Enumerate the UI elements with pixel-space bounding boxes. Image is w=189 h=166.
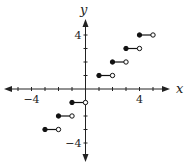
- y-axis-down-arrow-icon: [83, 154, 89, 162]
- closed-dot-icon: [43, 127, 47, 131]
- closed-dot-icon: [56, 114, 60, 118]
- step-segment: [43, 127, 61, 131]
- y-tick-label: −4: [65, 137, 81, 150]
- open-dot-icon: [56, 127, 60, 131]
- step-segment: [70, 100, 88, 104]
- step-segment: [137, 33, 155, 37]
- step-segment: [97, 73, 115, 77]
- closed-dot-icon: [70, 100, 74, 104]
- step-segments: [43, 33, 155, 132]
- x-axis-right-arrow-icon: [162, 86, 170, 92]
- open-dot-icon: [110, 73, 114, 77]
- step-function-graph: x y −444−4: [0, 0, 189, 166]
- axes: [4, 19, 170, 162]
- step-segment: [56, 114, 74, 118]
- closed-dot-icon: [110, 60, 114, 64]
- y-tick-label: 4: [75, 29, 82, 42]
- open-dot-icon: [83, 100, 87, 104]
- open-dot-icon: [70, 114, 74, 118]
- closed-dot-icon: [97, 73, 101, 77]
- x-tick-label: −4: [23, 93, 39, 106]
- closed-dot-icon: [124, 46, 128, 50]
- y-axis-up-arrow-icon: [83, 19, 89, 27]
- x-axis-label: x: [176, 81, 184, 96]
- x-tick-label: 4: [136, 93, 143, 106]
- open-dot-icon: [124, 60, 128, 64]
- open-dot-icon: [151, 33, 155, 37]
- open-dot-icon: [137, 46, 141, 50]
- x-axis-left-arrow-icon: [4, 86, 12, 92]
- y-axis-label: y: [79, 2, 88, 17]
- step-segment: [124, 46, 142, 50]
- step-segment: [110, 60, 128, 64]
- closed-dot-icon: [137, 33, 141, 37]
